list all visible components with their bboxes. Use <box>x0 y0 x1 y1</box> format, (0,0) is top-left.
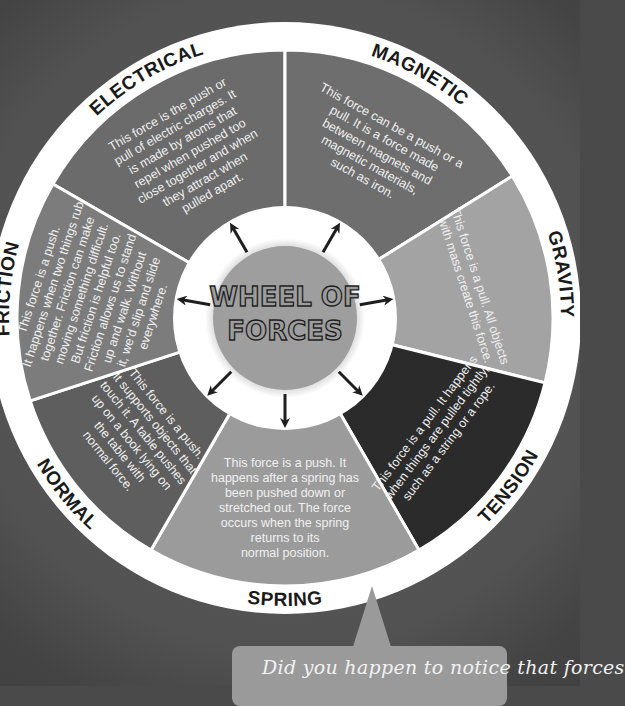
callout-text: Did you happen to notice that forces <box>262 656 625 678</box>
